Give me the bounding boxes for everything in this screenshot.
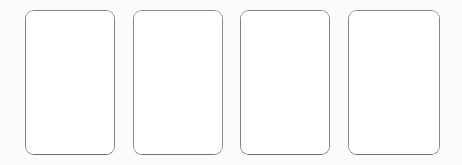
card-slot[interactable] (25, 10, 115, 155)
card-slot[interactable] (240, 10, 330, 155)
card-content-area (349, 11, 439, 154)
card-content-area (134, 11, 222, 154)
card-slot[interactable] (133, 10, 223, 155)
card-content-area (26, 11, 114, 154)
card-placeholder-row (0, 0, 462, 165)
card-slot[interactable] (348, 10, 440, 155)
card-content-area (241, 11, 329, 154)
